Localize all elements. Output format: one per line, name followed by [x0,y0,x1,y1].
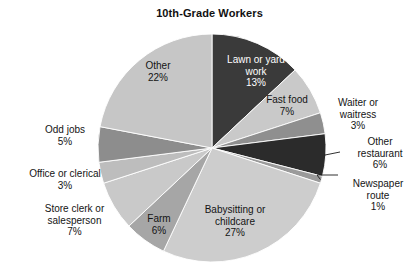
pie-label-fast-food: Fast food7% [254,94,320,117]
pie-label-line: Newspaper [340,178,416,190]
pie-label-newspaper-route: Newspaperroute1% [340,178,416,213]
pie-label-line: Waiter or [326,97,390,109]
pie-label-line: 27% [190,227,280,239]
pie-label-line: childcare [190,216,280,228]
pie-label-office-or-clerical: Office or clerical3% [10,168,120,191]
pie-label-line: Other [131,60,185,72]
pie-label-line: 22% [131,72,185,84]
pie-label-waiter-or-waitress: Waiter orwaitress3% [326,97,390,132]
pie-label-line: restaurant [345,148,415,160]
pie-label-line: 3% [10,180,120,192]
pie-label-line: 7% [22,226,127,238]
pie-label-line: Babysitting or [190,204,280,216]
pie-label-other: Other22% [131,60,185,83]
pie-label-line: 3% [326,120,390,132]
pie-label-line: Fast food [254,94,320,106]
pie-label-odd-jobs: Odd jobs5% [26,124,104,147]
pie-label-line: 6% [139,225,179,237]
pie-label-line: Lawn or yard [214,54,298,66]
pie-chart-figure: 10th-Grade Workers Lawn or yardwork13%Fa… [0,0,419,274]
pie-label-line: Office or clerical [10,168,120,180]
pie-label-line: Other [345,136,415,148]
pie-label-line: 1% [340,201,416,213]
pie-label-babysitting-or-childcare: Babysitting orchildcare27% [190,204,280,239]
leader-line-other-restaurant [325,152,340,155]
pie-label-line: Farm [139,213,179,225]
pie-label-line: salesperson [22,215,127,227]
pie-label-line: 5% [26,136,104,148]
pie-label-line: Store clerk or [22,203,127,215]
pie-label-line: Odd jobs [26,124,104,136]
pie-label-line: route [340,190,416,202]
pie-label-line: 13% [214,77,298,89]
pie-label-line: 6% [345,159,415,171]
pie-label-farm: Farm6% [139,213,179,236]
pie-label-other-restaurant: Otherrestaurant6% [345,136,415,171]
pie-label-line: work [214,66,298,78]
pie-label-lawn-or-yard-work: Lawn or yardwork13% [214,54,298,89]
pie-label-store-clerk-or-salesperson: Store clerk orsalesperson7% [22,203,127,238]
pie-label-line: 7% [254,106,320,118]
pie-label-line: waitress [326,109,390,121]
